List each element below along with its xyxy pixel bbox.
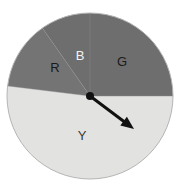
sector-label-y: Y [78, 128, 87, 143]
sector-label-g: G [117, 54, 127, 69]
sector-label-r: R [50, 60, 59, 75]
sector-label-b: B [76, 48, 85, 63]
spinner-figure: B G Y R [0, 0, 182, 192]
spinner-canvas: B G Y R [0, 0, 182, 192]
arrow-pivot-dot [86, 92, 94, 100]
sector-g[interactable] [90, 13, 173, 96]
